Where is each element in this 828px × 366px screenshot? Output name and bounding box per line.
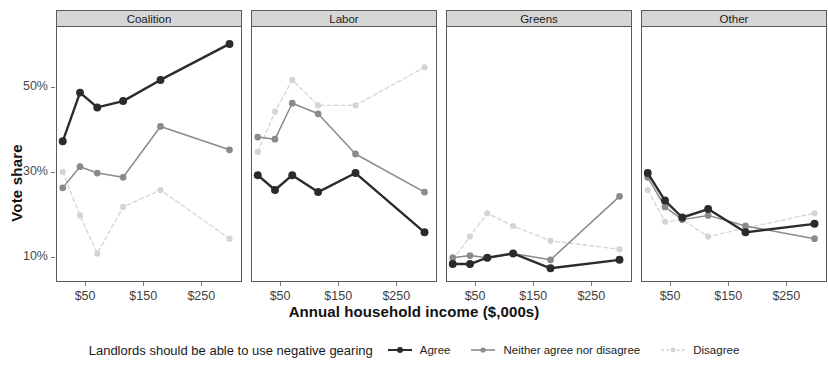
x-axis-title: Annual household income ($,000s) [0,303,828,320]
data-point [315,102,321,108]
data-point [255,149,261,155]
data-point [616,193,623,200]
x-axis-tick-label: $150 [129,289,157,303]
facet-strip-greens: Greens [446,10,632,27]
legend: Landlords should be able to use negative… [0,339,828,361]
data-point [254,171,262,179]
x-axis-tick-label: $50 [270,289,291,303]
x-axis-tick-mark [85,282,86,286]
facet-panel-other: Other [641,10,827,282]
legend-title: Landlords should be able to use negative… [89,343,373,358]
x-axis-tick-mark [143,282,144,286]
data-point [644,169,652,177]
data-point [547,238,553,244]
x-axis-tick-label: $250 [382,289,410,303]
facet-panel-greens: Greens [446,10,632,282]
facet-strip-label: Coalition [127,13,172,25]
legend-label: Agree [420,344,451,356]
data-point [76,89,84,97]
series-line [63,126,230,187]
data-point [59,184,66,191]
y-axis-title: Vote share [8,83,25,283]
legend-item-disagree[interactable]: Disagree [660,344,739,356]
data-point [120,174,127,181]
x-axis-tick-mark [670,282,671,286]
y-axis-tick-mark [51,87,55,88]
data-point [616,246,622,252]
plot-area-labor [251,27,437,282]
data-point [616,256,624,264]
data-point [645,187,651,193]
facet-panel-coalition: Coalition [56,10,242,282]
data-point [352,169,360,177]
facet-strip-other: Other [641,10,827,27]
data-point [742,228,750,236]
data-point [272,136,279,143]
data-point [94,250,100,256]
data-point [271,186,279,194]
legend-item-neither[interactable]: Neither agree nor disagree [470,344,640,356]
y-axis-tick-label: 30% [23,164,48,178]
x-axis-tick-mark [533,282,534,286]
data-point [352,151,359,158]
data-point [94,170,101,177]
series-line [63,44,230,141]
x-axis-tick-label: $50 [465,289,486,303]
data-point [352,102,358,108]
x-axis-tick-mark [396,282,397,286]
y-axis-tick-label: 10% [23,249,48,263]
series-line [258,173,425,232]
series-line [648,173,815,232]
data-point [466,260,474,268]
data-point [705,233,711,239]
data-point [547,264,555,272]
data-point [254,134,261,141]
data-point [288,171,296,179]
data-point [157,76,165,84]
y-axis-tick-label: 50% [23,79,48,93]
data-point [315,110,322,117]
data-point [77,163,84,170]
data-point [811,235,818,242]
x-axis-tick-mark [338,282,339,286]
data-point [157,123,164,130]
plot-area-coalition [56,27,242,282]
facet-strip-label: Labor [329,13,358,25]
x-axis-tick-mark [280,282,281,286]
series-line [453,253,620,268]
data-point [421,64,427,70]
data-point [289,77,295,83]
data-point [467,252,474,259]
data-point [60,169,66,175]
x-axis-tick-label: $50 [660,289,681,303]
data-point [510,223,516,229]
data-point [811,220,819,228]
x-axis-tick-label: $150 [714,289,742,303]
legend-key-line-icon [660,344,686,356]
x-axis-tick-label: $250 [577,289,605,303]
legend-key-line-icon [470,344,496,356]
data-point [662,204,669,211]
facet-strip-label: Other [720,13,749,25]
series-line [453,196,620,259]
data-point [678,214,686,222]
legend-key-line-icon [387,344,413,356]
data-point [483,254,491,262]
x-axis-tick-label: $50 [75,289,96,303]
legend-label: Disagree [693,344,739,356]
facet-strip-labor: Labor [251,10,437,27]
x-axis-tick-label: $150 [519,289,547,303]
data-point [226,40,234,48]
x-axis-tick-mark [201,282,202,286]
data-point [77,212,83,218]
data-point [467,233,473,239]
data-point [547,256,554,263]
data-point [421,228,429,236]
x-axis-tick-label: $150 [324,289,352,303]
legend-item-agree[interactable]: Agree [387,344,451,356]
plot-area-other [641,27,827,282]
y-axis-tick-mark [51,257,55,258]
data-point [93,103,101,111]
data-point [289,100,296,107]
facet-strip-label: Greens [520,13,558,25]
